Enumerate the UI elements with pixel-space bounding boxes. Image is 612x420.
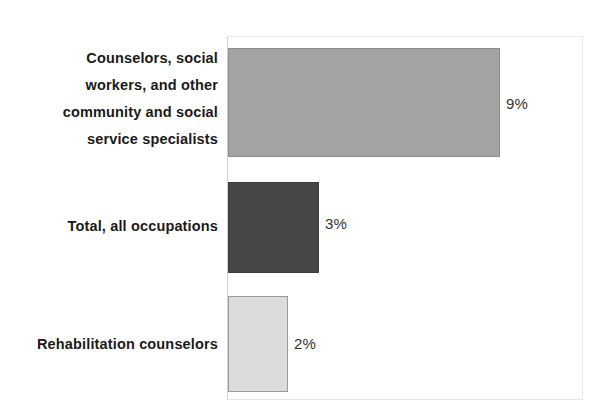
bar-total-all-occupations <box>228 182 319 273</box>
category-label-text: Total, all occupations <box>30 216 218 236</box>
category-label-text: Rehabilitation counselors <box>16 334 218 354</box>
value-label-rehabilitation-counselors: 2% <box>294 335 316 352</box>
category-label-rehabilitation-counselors: Rehabilitation counselors <box>16 334 218 354</box>
category-label-text: Counselors, social workers, and other co… <box>30 45 218 153</box>
category-label-total-all-occupations: Total, all occupations <box>30 216 218 236</box>
category-label-counselors-social-workers: Counselors, social workers, and other co… <box>30 45 218 153</box>
bar-counselors-social-workers <box>228 48 500 157</box>
bar-rehabilitation-counselors <box>228 296 288 392</box>
value-label-total-all-occupations: 3% <box>325 215 347 232</box>
value-label-counselors-social-workers: 9% <box>506 95 528 112</box>
bar-chart: Counselors, social workers, and other co… <box>0 0 612 420</box>
